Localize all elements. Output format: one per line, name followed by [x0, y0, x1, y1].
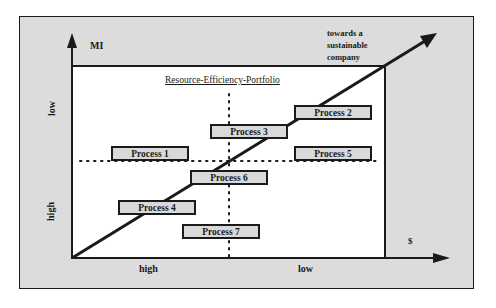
process-3-box: Process 3: [210, 124, 288, 139]
trend-label-line3: company: [327, 51, 368, 63]
y-axis-top-label: low: [46, 97, 57, 121]
y-axis-bottom-label: high: [45, 198, 56, 226]
diagram-lines: [0, 0, 496, 308]
diagram-title: Resource-Efficiency-Portfolio: [165, 75, 280, 85]
trend-arrowhead: [420, 33, 437, 48]
process-4-box: Process 4: [118, 200, 196, 215]
process-6-box: Process 6: [190, 170, 268, 185]
y-axis-arrowhead: [67, 33, 77, 48]
process-1-box: Process 1: [111, 146, 189, 161]
process-5-box: Process 5: [294, 146, 372, 161]
x-axis-right-label: low: [298, 263, 313, 274]
x-axis-left-label: high: [139, 263, 158, 274]
x-axis-arrowhead: [433, 253, 450, 263]
process-7-box: Process 7: [182, 224, 260, 239]
trend-label: towards a sustainable company: [327, 27, 368, 63]
trend-label-line2: sustainable: [327, 39, 368, 51]
x-axis-label: $: [408, 236, 413, 246]
trend-label-line1: towards a: [327, 27, 368, 39]
y-axis-label: MI: [90, 40, 103, 51]
process-2-box: Process 2: [294, 105, 372, 120]
